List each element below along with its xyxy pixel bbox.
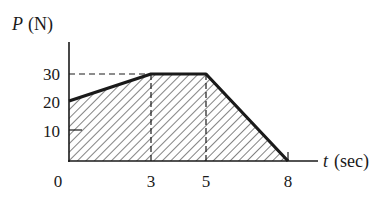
impulse-chart: P(N) 30 20 10 0 3 5 8 t(sec) bbox=[0, 0, 392, 201]
y-tick-label-20: 20 bbox=[43, 93, 60, 112]
impulse-area bbox=[69, 74, 288, 161]
x-axis-title: t(sec) bbox=[323, 151, 369, 172]
x-tick-label-8: 8 bbox=[284, 172, 293, 191]
x-tick-label-5: 5 bbox=[202, 172, 211, 191]
y-tick-label-30: 30 bbox=[43, 65, 60, 84]
y-tick-label-10: 10 bbox=[43, 122, 60, 141]
x-tick-label-0: 0 bbox=[54, 172, 63, 191]
y-axis-title: P(N) bbox=[11, 14, 53, 35]
x-tick-label-3: 3 bbox=[147, 172, 156, 191]
